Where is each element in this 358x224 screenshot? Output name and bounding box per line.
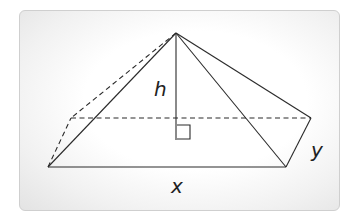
left-base-edge	[48, 118, 71, 167]
length-label: x	[170, 174, 183, 198]
width-label: y	[310, 138, 324, 162]
height-label: h	[154, 77, 167, 101]
pyramid-diagram: h x y	[0, 0, 358, 224]
right-base-edge	[286, 118, 311, 167]
apex-back-right-edge	[176, 33, 311, 118]
apex-back-left-edge	[71, 33, 176, 118]
right-angle-marker	[177, 125, 190, 139]
apex-front-right-edge	[176, 33, 286, 167]
